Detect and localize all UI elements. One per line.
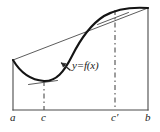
secant-line xyxy=(13,8,148,60)
axis-label-c-prime: c′ xyxy=(111,112,118,123)
axis-label-b: b xyxy=(145,112,151,123)
mean-value-theorem-figure: a c c′ b y=f(x) xyxy=(0,0,160,132)
curve-equation-label: y=f(x) xyxy=(72,60,98,71)
axis-label-a: a xyxy=(10,112,16,123)
axis-label-c: c xyxy=(41,112,46,123)
